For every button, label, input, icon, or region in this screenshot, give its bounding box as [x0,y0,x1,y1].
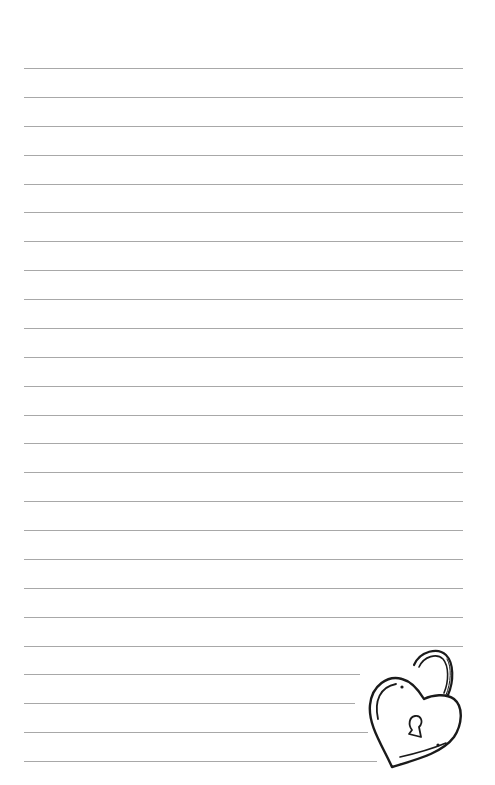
ruled-line [24,472,463,473]
ruled-line [24,299,463,300]
ruled-line [24,270,463,271]
ruled-line [24,559,463,560]
ruled-line [24,97,463,98]
ruled-line [24,212,463,213]
ruled-line [24,415,463,416]
ruled-line [24,761,377,762]
ruled-line [24,530,463,531]
ruled-line [24,732,368,733]
ruled-line [24,68,463,69]
ruled-line [24,357,463,358]
ruled-line [24,155,463,156]
notebook-page [0,0,495,785]
heart-padlock-icon [362,645,472,770]
ruled-line [24,703,355,704]
ruled-line [24,501,463,502]
ruled-line [24,241,463,242]
ruled-line [24,674,360,675]
ruled-line [24,126,463,127]
ruled-line [24,443,463,444]
ruled-line [24,328,463,329]
ruled-line [24,184,463,185]
ruled-line [24,617,463,618]
ruled-line [24,588,463,589]
ruled-line [24,386,463,387]
